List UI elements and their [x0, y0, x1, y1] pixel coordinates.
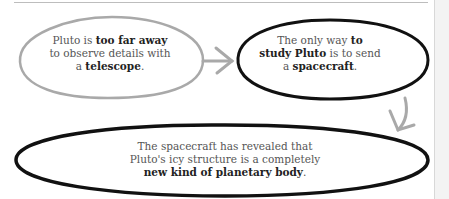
bold-segment: telescope [85, 60, 141, 72]
node-new-kind-text: The spacecraft has revealed that Pluto's… [90, 140, 360, 179]
text-segment: The only way [277, 34, 351, 46]
text-segment: . [354, 60, 357, 72]
text-segment: a [76, 60, 86, 72]
text-segment: is to send [326, 47, 380, 59]
text-segment: . [141, 60, 144, 72]
bold-segment: to [351, 34, 363, 46]
text-segment: The spacecraft has revealed that [138, 140, 313, 152]
text-segment: . [303, 166, 306, 178]
node-telescope-text: Pluto is too far away to observe details… [30, 34, 190, 73]
text-segment: to observe details with [49, 47, 170, 59]
bold-segment: too far away [96, 34, 168, 46]
bold-segment: new kind of planetary body [144, 166, 303, 178]
arrow-down-icon [390, 98, 414, 130]
text-segment: a [283, 60, 293, 72]
bold-segment: spacecraft [293, 60, 354, 72]
bold-segment: study Pluto [259, 47, 326, 59]
text-segment: Pluto is [53, 34, 96, 46]
arrow-right-icon [203, 48, 232, 73]
node-spacecraft-text: The only way to study Pluto is to send a… [245, 34, 395, 73]
text-segment: Pluto's icy structure is a completely [130, 153, 321, 165]
